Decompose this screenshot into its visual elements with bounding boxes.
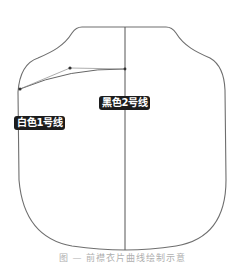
bezier-handle-line-2 [70,68,125,69]
garment-outline [18,27,226,250]
bezier-handle-line-1 [20,68,70,89]
anchor-point-end[interactable] [124,68,127,71]
control-point[interactable] [68,66,71,69]
black-line-2-label: 黑色2号线 [99,96,150,110]
drawn-bezier-curve [20,69,125,89]
anchor-point-start[interactable] [18,87,21,90]
figure-caption: 图 — 前襟衣片曲线绘制示意 [0,251,245,264]
white-line-1-label: 白色1号线 [14,116,65,130]
